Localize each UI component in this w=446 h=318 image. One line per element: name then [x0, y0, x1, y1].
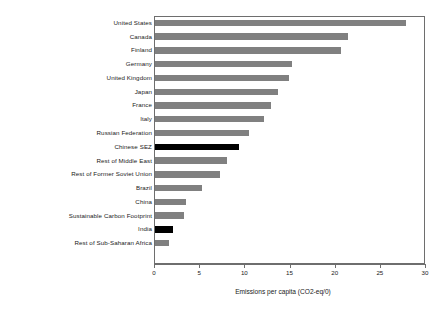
- category-label: Germany: [6, 60, 152, 68]
- category-label: India: [6, 225, 152, 233]
- category-label: Finland: [6, 46, 152, 54]
- category-label: Chinese SEZ: [6, 143, 152, 151]
- bar-row: Finland: [0, 44, 446, 58]
- bar-united-kingdom: [155, 75, 289, 81]
- bar-brazil: [155, 185, 202, 191]
- bar-track: [155, 112, 264, 126]
- bar-china: [155, 199, 186, 205]
- bar-track: [155, 167, 220, 181]
- bar-track: [155, 222, 173, 236]
- category-label: France: [6, 101, 152, 109]
- bar-finland: [155, 47, 341, 53]
- bar-row: Russian Federation: [0, 126, 446, 140]
- bar-track: [155, 236, 169, 250]
- bar-row: Italy: [0, 112, 446, 126]
- category-label: Russian Federation: [6, 129, 152, 137]
- bar-row: Brazil: [0, 181, 446, 195]
- bar-rest-of-former-soviet-union: [155, 171, 220, 177]
- bar-row: Rest of Sub-Saharan Africa: [0, 236, 446, 250]
- bar-track: [155, 99, 271, 113]
- bar-track: [155, 16, 406, 30]
- bar-row: Germany: [0, 57, 446, 71]
- bar-row: Sustainable Carbon Footprint: [0, 209, 446, 223]
- x-tick: [335, 264, 336, 268]
- x-tick-label: 10: [241, 269, 248, 276]
- category-label: China: [6, 198, 152, 206]
- bar-row: Rest of Middle East: [0, 154, 446, 168]
- bar-row: Canada: [0, 30, 446, 44]
- bar-row: China: [0, 195, 446, 209]
- bar-track: [155, 195, 186, 209]
- category-label: United Kingdom: [6, 74, 152, 82]
- bar-track: [155, 85, 278, 99]
- category-label: Rest of Middle East: [6, 157, 152, 165]
- x-axis-title: Emissions per capita (CO2-eq/0): [0, 288, 446, 295]
- x-tick: [425, 264, 426, 268]
- bar-japan: [155, 89, 278, 95]
- bar-rows: United StatesCanadaFinlandGermanyUnited …: [0, 16, 446, 264]
- bar-track: [155, 181, 202, 195]
- bar-row: Rest of Former Soviet Union: [0, 167, 446, 181]
- x-tick: [199, 264, 200, 268]
- bar-row: France: [0, 99, 446, 113]
- x-tick-label: 0: [152, 269, 155, 276]
- bar-rest-of-sub-saharan-africa: [155, 240, 169, 246]
- category-label: Brazil: [6, 184, 152, 192]
- category-label: Rest of Sub-Saharan Africa: [6, 239, 152, 247]
- bar-russian-federation: [155, 130, 249, 136]
- category-label: United States: [6, 19, 152, 27]
- bar-sustainable-carbon-footprint: [155, 212, 184, 218]
- bar-chart: United StatesCanadaFinlandGermanyUnited …: [0, 0, 446, 318]
- bar-track: [155, 71, 289, 85]
- bar-germany: [155, 61, 292, 67]
- bar-france: [155, 102, 271, 108]
- bar-track: [155, 57, 292, 71]
- bar-track: [155, 209, 184, 223]
- bar-row: India: [0, 222, 446, 236]
- x-tick-label: 30: [422, 269, 429, 276]
- bar-row: Chinese SEZ: [0, 140, 446, 154]
- bar-chinese-sez: [155, 144, 239, 150]
- bar-track: [155, 30, 348, 44]
- bar-row: United Kingdom: [0, 71, 446, 85]
- bar-track: [155, 126, 249, 140]
- category-label: Japan: [6, 88, 152, 96]
- x-tick: [380, 264, 381, 268]
- bar-row: United States: [0, 16, 446, 30]
- x-tick-label: 5: [197, 269, 200, 276]
- category-label: Italy: [6, 115, 152, 123]
- category-label: Sustainable Carbon Footprint: [6, 212, 152, 220]
- category-label: Canada: [6, 33, 152, 41]
- x-tick-label: 25: [376, 269, 383, 276]
- bar-italy: [155, 116, 264, 122]
- x-axis-title-text: Emissions per capita (CO2-eq/0): [235, 288, 331, 295]
- x-tick-label: 20: [331, 269, 338, 276]
- x-tick: [290, 264, 291, 268]
- bar-united-states: [155, 20, 406, 26]
- x-tick: [244, 264, 245, 268]
- bar-india: [155, 226, 173, 232]
- x-tick: [154, 264, 155, 268]
- bar-track: [155, 154, 227, 168]
- bar-track: [155, 140, 239, 154]
- bar-track: [155, 44, 341, 58]
- x-tick-label: 15: [286, 269, 293, 276]
- category-label: Rest of Former Soviet Union: [6, 170, 152, 178]
- bar-row: Japan: [0, 85, 446, 99]
- bar-rest-of-middle-east: [155, 157, 227, 163]
- bar-canada: [155, 33, 348, 39]
